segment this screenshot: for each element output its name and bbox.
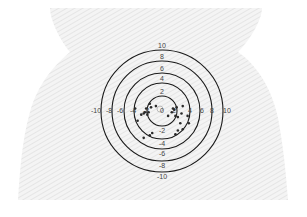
data-point [134, 107, 137, 110]
data-point [186, 115, 189, 118]
bottom-label-10: -10 [157, 173, 167, 180]
bottom-label-2: -2 [159, 127, 165, 134]
data-point [136, 119, 139, 122]
right-label-10: 10 [223, 107, 231, 114]
top-label-2: 2 [160, 88, 164, 95]
data-point [142, 137, 145, 140]
data-point [149, 134, 152, 137]
data-point [140, 113, 143, 116]
data-point [188, 122, 191, 125]
top-label-10: 10 [158, 42, 166, 49]
abdomen-target-diagram: 108642-2-4-6-8-10-10-8-6-4-22468100 [0, 0, 307, 217]
right-label-6: 6 [200, 107, 204, 114]
data-point [181, 105, 184, 108]
data-point [147, 111, 150, 114]
left-label-6: -6 [117, 107, 123, 114]
data-point [170, 111, 173, 114]
bottom-label-8: -8 [159, 162, 165, 169]
right-label-8: 8 [210, 107, 214, 114]
top-label-6: 6 [160, 65, 164, 72]
left-label-8: -8 [106, 107, 112, 114]
data-point [151, 132, 154, 135]
data-point [177, 116, 180, 119]
data-point [150, 106, 153, 109]
top-label-8: 8 [160, 53, 164, 60]
data-point [167, 115, 170, 118]
top-label-4: 4 [160, 75, 164, 82]
data-point [175, 106, 178, 109]
data-point [146, 113, 149, 116]
right-label-4: 4 [188, 107, 192, 114]
data-point [149, 102, 152, 105]
bottom-label-4: -4 [159, 140, 165, 147]
center-label-0: 0 [160, 107, 164, 114]
data-point [180, 112, 183, 115]
data-point [179, 122, 182, 125]
left-label-10: -10 [91, 107, 101, 114]
diagram-svg: 108642-2-4-6-8-10-10-8-6-4-22468100 [0, 0, 307, 217]
data-point [155, 105, 158, 108]
data-point [173, 108, 176, 111]
data-point [174, 115, 177, 118]
bottom-label-6: -6 [159, 150, 165, 157]
data-point [174, 133, 177, 136]
data-point [181, 128, 184, 131]
data-point [142, 112, 145, 115]
data-point [177, 129, 180, 132]
data-point [145, 107, 148, 110]
